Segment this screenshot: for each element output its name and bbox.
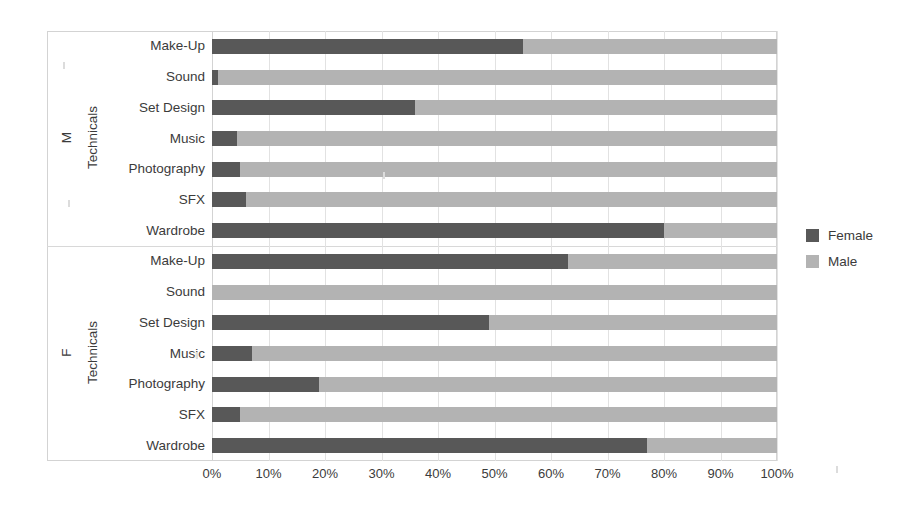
bar-segment-female[interactable] — [212, 438, 647, 453]
bar-segment-male[interactable] — [664, 223, 777, 238]
bar-row[interactable] — [212, 254, 777, 269]
bar-segment-female[interactable] — [212, 407, 240, 422]
x-tick-label: 80% — [634, 466, 694, 481]
category-label: Sound — [100, 285, 205, 299]
axis-group-label-f: F — [59, 292, 74, 412]
bar-row[interactable] — [212, 223, 777, 238]
category-label: SFX — [100, 408, 205, 422]
x-tick-label: 50% — [465, 466, 525, 481]
bar-segment-male[interactable] — [647, 438, 777, 453]
x-tick-label: 100% — [747, 466, 807, 481]
bar-segment-male[interactable] — [319, 377, 777, 392]
bar-row[interactable] — [212, 162, 777, 177]
legend-label: Female — [828, 228, 873, 243]
bar-segment-male[interactable] — [252, 346, 777, 361]
bar-segment-male[interactable] — [240, 162, 777, 177]
scan-artifact — [383, 172, 385, 179]
bar-segment-female[interactable] — [212, 39, 523, 54]
gridline-60pct — [551, 31, 552, 461]
legend-swatch-icon — [806, 229, 819, 242]
legend-swatch-icon — [806, 255, 819, 268]
stacked-bar-chart: M Technicals F Technicals Make-UpSoundSe… — [0, 0, 922, 514]
plot-area — [212, 31, 777, 461]
bar-segment-male[interactable] — [212, 285, 777, 300]
category-label: Wardrobe — [100, 439, 205, 453]
category-label: Music — [100, 132, 205, 146]
x-tick-label: 0% — [182, 466, 242, 481]
bar-segment-male[interactable] — [568, 254, 777, 269]
bar-segment-male[interactable] — [523, 39, 777, 54]
bar-segment-male[interactable] — [237, 131, 777, 146]
x-tick-label: 60% — [521, 466, 581, 481]
x-tick-label: 30% — [352, 466, 412, 481]
category-axis-labels: Make-UpSoundSet DesignMusicPhotographySF… — [100, 31, 205, 461]
bar-row[interactable] — [212, 70, 777, 85]
bar-row[interactable] — [212, 346, 777, 361]
category-label: Wardrobe — [100, 224, 205, 238]
category-label: Sound — [100, 70, 205, 84]
x-axis-tick-labels: 0%10%20%30%40%50%60%70%80%90%100% — [212, 466, 777, 486]
gridline-10pct — [269, 31, 270, 461]
gridline-70pct — [608, 31, 609, 461]
bar-segment-male[interactable] — [246, 192, 777, 207]
gridline-50pct — [495, 31, 496, 461]
axis-group-sublabel-f-technicals: Technicals — [85, 292, 100, 412]
axis-group-sublabel-m-technicals: Technicals — [85, 77, 100, 197]
bar-row[interactable] — [212, 315, 777, 330]
bar-row[interactable] — [212, 438, 777, 453]
bar-row[interactable] — [212, 39, 777, 54]
x-tick-label: 10% — [239, 466, 299, 481]
bar-row[interactable] — [212, 192, 777, 207]
bar-segment-male[interactable] — [415, 100, 777, 115]
gridline-20pct — [325, 31, 326, 461]
x-tick-label: 70% — [578, 466, 638, 481]
bar-segment-female[interactable] — [212, 254, 568, 269]
x-tick-label: 20% — [295, 466, 355, 481]
bar-row[interactable] — [212, 377, 777, 392]
category-label: Set Design — [100, 101, 205, 115]
bar-segment-female[interactable] — [212, 315, 489, 330]
gridline-40pct — [438, 31, 439, 461]
bar-segment-male[interactable] — [240, 407, 777, 422]
bar-segment-male[interactable] — [489, 315, 777, 330]
bar-segment-female[interactable] — [212, 162, 240, 177]
bar-segment-female[interactable] — [212, 377, 319, 392]
category-label: Make-Up — [100, 39, 205, 53]
category-label: Music — [100, 347, 205, 361]
bar-row[interactable] — [212, 407, 777, 422]
bar-row[interactable] — [212, 285, 777, 300]
category-label: Photography — [100, 377, 205, 391]
bar-row[interactable] — [212, 131, 777, 146]
legend-label: Male — [828, 254, 857, 269]
category-label: Photography — [100, 162, 205, 176]
bar-segment-female[interactable] — [212, 131, 237, 146]
bar-segment-female[interactable] — [212, 223, 664, 238]
gridline-80pct — [664, 31, 665, 461]
category-label: Make-Up — [100, 254, 205, 268]
x-tick-label: 40% — [408, 466, 468, 481]
scan-artifact — [63, 62, 65, 69]
axis-group-label-m: M — [59, 77, 74, 197]
gridline-0pct — [212, 31, 213, 461]
legend-item-female[interactable]: Female — [806, 222, 916, 248]
scan-artifact — [68, 200, 70, 207]
bar-segment-male[interactable] — [218, 70, 777, 85]
x-tick-label: 90% — [691, 466, 751, 481]
bar-segment-female[interactable] — [212, 192, 246, 207]
bar-segment-female[interactable] — [212, 100, 415, 115]
chart-legend: FemaleMale — [806, 222, 916, 274]
gridline-30pct — [382, 31, 383, 461]
scan-artifact — [196, 352, 198, 359]
scan-artifact — [836, 466, 838, 473]
bar-segment-female[interactable] — [212, 346, 252, 361]
category-label: SFX — [100, 193, 205, 207]
gridline-90pct — [721, 31, 722, 461]
gridline-100pct — [777, 31, 778, 461]
bar-row[interactable] — [212, 100, 777, 115]
category-label: Set Design — [100, 316, 205, 330]
legend-item-male[interactable]: Male — [806, 248, 916, 274]
